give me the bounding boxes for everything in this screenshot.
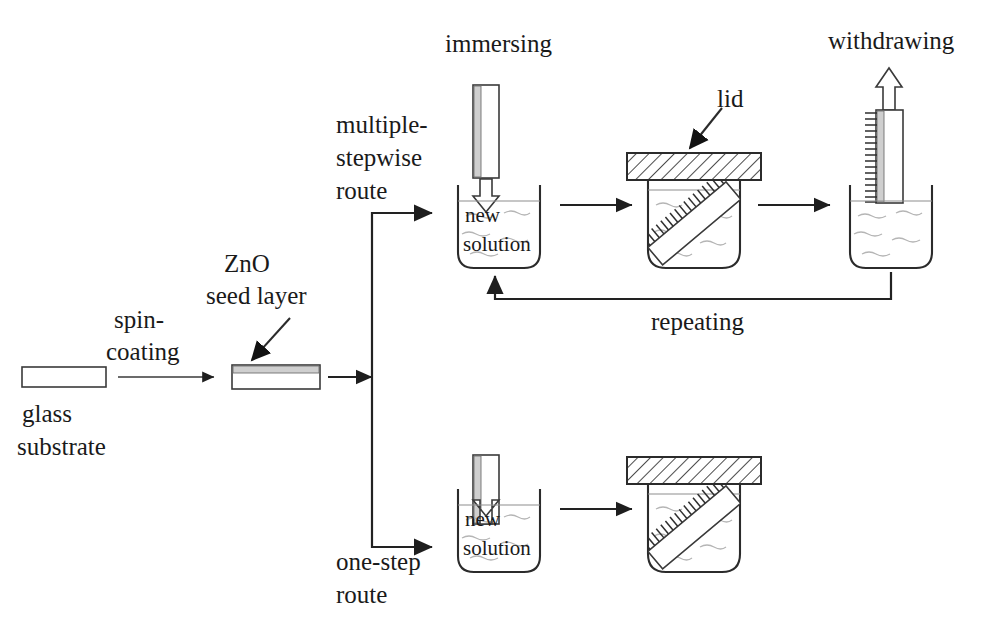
zno-seed-band: [233, 366, 319, 373]
spin-coating-label-line2: coating: [106, 338, 180, 365]
glass-substrate-group: [22, 367, 106, 387]
withdrawing-beaker-liquid: [850, 201, 932, 256]
beaker-lid-lower: [627, 457, 761, 484]
zno-label-line1: ZnO: [224, 250, 270, 277]
one-step-route-label-line1: one-step: [336, 548, 421, 575]
covered-beaker-stage-lower: [627, 457, 761, 572]
immersing-beaker-text-line2: solution: [463, 232, 531, 256]
multiple-route-label-line1: multiple-: [336, 111, 428, 138]
glass-substrate-label-line2: substrate: [17, 433, 106, 460]
diagram-canvas: new solution: [0, 0, 999, 622]
glass-substrate-label-line1: glass: [22, 400, 72, 427]
one-step-immersing-stage: new solution: [458, 455, 540, 572]
lid-label: lid: [717, 85, 744, 112]
repeating-loop-group: [495, 272, 891, 299]
withdrawing-direction-arrow: [876, 68, 902, 110]
branch-lower-path: [372, 377, 432, 547]
spin-coating-label-line1: spin-: [114, 306, 164, 333]
one-step-beaker-text-line1: new: [465, 507, 501, 531]
covered-beaker-upper-liquid: [640, 173, 741, 265]
immersing-seed-band: [474, 86, 481, 177]
immersing-stage: new solution: [458, 85, 540, 268]
covered-beaker-lower-liquid: [640, 477, 741, 569]
zno-annotation-arrow: [252, 318, 290, 360]
branch-upper-path: [372, 213, 432, 377]
covered-beaker-stage-upper: [627, 108, 761, 268]
seeded-substrate-group: [232, 318, 320, 389]
immersing-label: immersing: [445, 30, 552, 57]
process-flow-diagram: new solution: [0, 0, 999, 622]
immersing-beaker-text-line1: new: [465, 203, 501, 227]
withdrawing-label: withdrawing: [828, 27, 955, 54]
zno-label-line2: seed layer: [206, 282, 307, 309]
repeating-loop-path: [495, 272, 891, 299]
withdrawing-seed-band: [877, 111, 884, 202]
withdrawing-stage: [850, 68, 932, 268]
lid-annotation-arrow: [690, 108, 722, 148]
repeating-label: repeating: [651, 308, 745, 335]
multiple-route-label-line3: route: [336, 177, 387, 204]
tilted-substrate-lower: [640, 477, 741, 569]
one-step-beaker-text-line2: solution: [463, 536, 531, 560]
glass-substrate-plate: [22, 367, 106, 387]
multiple-route-label-line2: stepwise: [336, 144, 422, 171]
tilted-substrate-upper: [640, 173, 741, 265]
beaker-lid-upper: [627, 153, 761, 180]
route-branch-group: [328, 213, 432, 547]
one-step-route-label-line2: route: [336, 581, 387, 608]
